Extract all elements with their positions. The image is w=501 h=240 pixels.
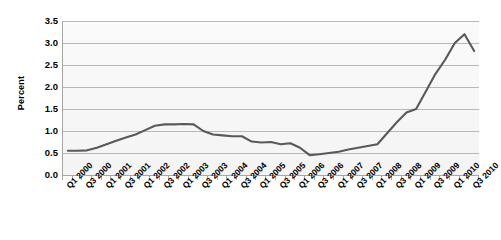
plot-area [62, 21, 479, 176]
y-tick-label: 0.0 [26, 170, 58, 180]
y-tick-label: 3.0 [26, 38, 58, 48]
y-tick-label: 0.5 [26, 148, 58, 158]
x-axis-tick-labels: Q1 2000Q3 2000Q1 2001Q3 2001Q1 2002Q3 20… [0, 181, 498, 240]
y-axis-tick-labels: 3.53.02.52.01.51.00.50.0 [26, 15, 58, 181]
y-tick-label: 3.5 [26, 16, 58, 26]
y-tick-label: 2.5 [26, 60, 58, 70]
y-tick-label: 2.0 [26, 82, 58, 92]
y-tick-label: 1.0 [26, 126, 58, 136]
x-tick [62, 176, 63, 180]
y-tick-label: 1.5 [26, 104, 58, 114]
series-line [63, 21, 479, 175]
